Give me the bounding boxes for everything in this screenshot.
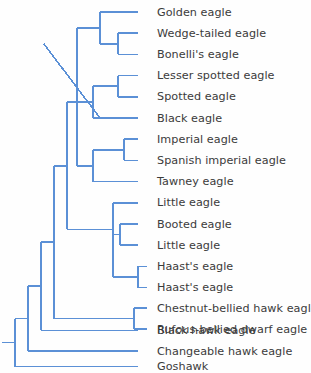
taxon-label: Haast's eagle [157,261,233,272]
taxon-label: Golden eagle [157,7,232,18]
branch-segment [44,44,100,118]
taxon-label: Spotted eagle [157,91,236,102]
taxon-label: Black hawk eagle [157,325,256,336]
taxon-label: Black eagle [157,113,222,124]
branch-lines [2,12,147,367]
taxon-label: Booted eagle [157,219,232,230]
taxon-label: Little eagle [157,197,220,208]
taxon-label: Spanish imperial eagle [157,155,286,166]
taxon-label: Tawney eagle [157,176,234,187]
taxon-label: Changeable hawk eagle [157,346,292,357]
taxon-label: Wedge-tailed eagle [157,28,266,39]
taxon-label: Bonelli's eagle [157,49,239,60]
tree-branch-diagram [0,0,311,373]
phylogenetic-tree-figure: Golden eagleWedge-tailed eagleBonelli's … [0,0,311,373]
taxon-label: Imperial eagle [157,134,238,145]
taxon-label: Lesser spotted eagle [157,70,275,81]
taxon-label: Little eagle [157,240,220,251]
taxon-label: Chestnut-bellied hawk eagle [157,303,311,314]
taxon-label: Haast's eagle [157,282,233,293]
taxon-label: Goshawk [157,361,208,372]
